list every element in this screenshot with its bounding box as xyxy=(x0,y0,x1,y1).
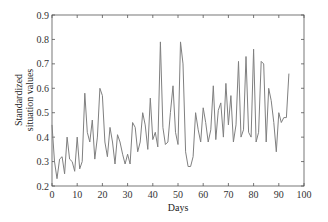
x-tick-label: 40 xyxy=(148,189,158,200)
line-chart: 0.20.30.40.50.60.70.80.9 010203040506070… xyxy=(0,0,328,222)
x-tick-label: 50 xyxy=(173,189,183,200)
x-tick-label: 70 xyxy=(223,189,233,200)
plot-area-border xyxy=(52,15,304,186)
y-tick-label: 0.3 xyxy=(37,156,50,167)
x-tick-label: 0 xyxy=(50,189,55,200)
y-tick-label: 0.7 xyxy=(37,58,50,69)
x-tick-label: 10 xyxy=(72,189,82,200)
y-axis-ticks: 0.20.30.40.50.60.70.80.9 xyxy=(37,10,305,192)
y-tick-label: 0.6 xyxy=(37,83,50,94)
data-series-line xyxy=(52,42,289,179)
y-tick-label: 0.2 xyxy=(37,181,50,192)
y-tick-label: 0.8 xyxy=(37,34,50,45)
x-axis-label: Days xyxy=(168,202,189,213)
y-axis-label-line2: situation values xyxy=(24,69,35,132)
x-tick-label: 60 xyxy=(198,189,208,200)
y-tick-label: 0.9 xyxy=(37,10,50,21)
x-tick-label: 20 xyxy=(97,189,107,200)
y-axis-label-line1: Standardized xyxy=(13,74,24,126)
y-tick-label: 0.4 xyxy=(37,132,50,143)
x-tick-label: 80 xyxy=(249,189,259,200)
x-tick-label: 30 xyxy=(123,189,133,200)
axes-frame xyxy=(52,15,304,186)
x-tick-label: 100 xyxy=(297,189,312,200)
x-tick-label: 90 xyxy=(274,189,284,200)
y-tick-label: 0.5 xyxy=(37,107,50,118)
